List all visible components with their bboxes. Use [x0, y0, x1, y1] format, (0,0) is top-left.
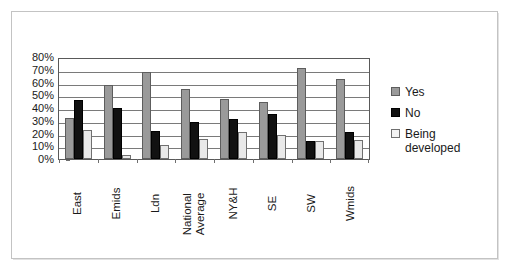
bar[interactable] [142, 72, 151, 159]
bar[interactable] [65, 118, 74, 159]
plot-area [58, 58, 370, 160]
bar-group [292, 59, 331, 159]
bar[interactable] [104, 85, 113, 159]
y-axis-tick-mark [66, 160, 70, 161]
x-axis-tick-label-text: SE [266, 196, 279, 211]
bar[interactable] [199, 139, 208, 159]
bar[interactable] [181, 89, 190, 159]
y-axis-tick-label: 60% [32, 78, 54, 89]
bar[interactable] [345, 132, 354, 159]
legend-label: No [405, 106, 420, 120]
bar-group [175, 59, 214, 159]
bar[interactable] [306, 141, 315, 159]
bar-group [214, 59, 253, 159]
x-axis-tick-label: East [58, 163, 97, 253]
bar[interactable] [315, 141, 324, 159]
bar[interactable] [190, 122, 199, 159]
bar[interactable] [151, 131, 160, 159]
x-axis: EastEmidsLdnNational AverageNY&HSESWWmid… [58, 163, 370, 258]
bar[interactable] [277, 135, 286, 159]
x-axis-tick-label: National Average [175, 163, 214, 253]
y-axis-tick-label: 0% [38, 154, 54, 165]
bar-group [330, 59, 369, 159]
x-axis-tick-label-text: National Average [182, 193, 208, 236]
y-axis-tick-label: 70% [32, 65, 54, 76]
legend-swatch-icon [391, 108, 400, 117]
y-axis-tick-label: 40% [32, 103, 54, 114]
bar[interactable] [238, 132, 247, 159]
x-axis-tick-label-text: NY&H [227, 188, 240, 220]
y-axis-tick-label: 50% [32, 90, 54, 101]
y-axis-tick-label: 80% [32, 52, 54, 63]
x-axis-tick-label: SW [292, 163, 331, 253]
bar[interactable] [160, 145, 169, 159]
y-axis: 80%70%60%50%40%30%20%10%0% [12, 51, 54, 167]
bar-groups [59, 59, 369, 159]
x-axis-tick-label: NY&H [214, 163, 253, 253]
bar[interactable] [113, 108, 122, 159]
y-axis-tick-label: 30% [32, 116, 54, 127]
y-axis-tick-label: 20% [32, 129, 54, 140]
bar[interactable] [259, 102, 268, 159]
chart-legend: YesNoBeing developed [391, 85, 501, 162]
legend-label: Being developed [405, 127, 491, 155]
bar-chart: 80%70%60%50%40%30%20%10%0% EastEmidsLdnN… [0, 0, 518, 280]
bar[interactable] [83, 130, 92, 159]
legend-swatch-icon [391, 87, 400, 96]
bar[interactable] [268, 114, 277, 159]
x-axis-tick-label-text: Wmids [344, 186, 357, 221]
bar[interactable] [229, 119, 238, 159]
legend-item[interactable]: No [391, 106, 501, 120]
legend-swatch-icon [391, 129, 400, 138]
bar-group [98, 59, 137, 159]
x-axis-tick-label-text: Emids [110, 188, 123, 220]
x-axis-tick-label: Emids [97, 163, 136, 253]
x-axis-tick-label-text: East [71, 192, 84, 215]
y-axis-tick-label: 10% [32, 141, 54, 152]
x-axis-tick-label-text: Ldn [149, 194, 162, 213]
bar[interactable] [122, 155, 131, 159]
x-axis-tick-label-text: SW [305, 194, 318, 213]
x-axis-tick-label: SE [253, 163, 292, 253]
bar[interactable] [354, 140, 363, 159]
legend-label: Yes [405, 85, 425, 99]
bar-group [137, 59, 176, 159]
bar-group [59, 59, 98, 159]
chart-figure: 80%70%60%50%40%30%20%10%0% EastEmidsLdnN… [0, 0, 518, 280]
bar[interactable] [336, 79, 345, 159]
legend-item[interactable]: Being developed [391, 127, 501, 155]
bar[interactable] [74, 100, 83, 159]
x-axis-tick-label: Wmids [331, 163, 370, 253]
x-axis-tick-label: Ldn [136, 163, 175, 253]
bar-group [253, 59, 292, 159]
bar[interactable] [220, 99, 229, 159]
bar[interactable] [297, 68, 306, 159]
legend-item[interactable]: Yes [391, 85, 501, 99]
